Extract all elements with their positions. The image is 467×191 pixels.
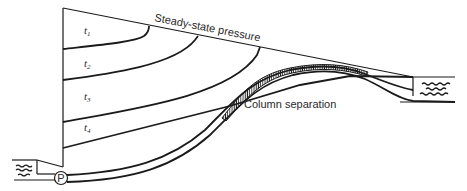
- t3-label: t3: [84, 90, 91, 104]
- pipe-lower-wall: [67, 72, 455, 182]
- t1-pressure-curve: [63, 26, 149, 49]
- pipe-upper-wall: [67, 67, 413, 175]
- pressure-diagram: P t1 t2 t3 t4 Steady-state pressure Colu…: [0, 0, 467, 191]
- column-separation-label: Column separation: [244, 98, 336, 110]
- pump-icon: P: [55, 172, 68, 185]
- t4-label: t4: [84, 121, 91, 135]
- steady-state-label: Steady-state pressure: [154, 11, 262, 43]
- t1-label: t1: [84, 24, 91, 38]
- t2-label: t2: [84, 57, 91, 71]
- pump-label: P: [57, 172, 64, 184]
